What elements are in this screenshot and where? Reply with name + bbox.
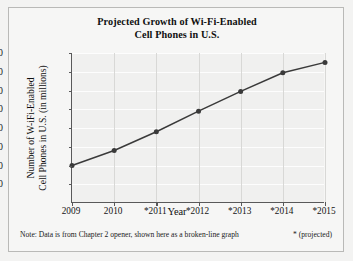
y-axis-tick-mark — [69, 184, 73, 185]
data-point-marker — [323, 60, 328, 65]
x-axis-tick-mark — [241, 202, 242, 206]
y-axis-tick-mark — [69, 147, 73, 148]
y-axis-tick-mark — [69, 72, 73, 73]
y-axis-tick-mark — [69, 166, 73, 167]
x-axis-tick-mark — [199, 202, 200, 206]
data-point-marker — [112, 148, 117, 153]
data-point-marker — [238, 89, 243, 94]
x-axis-tick-mark — [156, 202, 157, 206]
y-axis-tick-label: 140 — [0, 67, 3, 77]
y-axis-label-line-1: Number of W-iFi-Enabled — [25, 77, 36, 178]
x-axis-tick-mark — [114, 202, 115, 206]
x-axis-label: Year — [9, 206, 345, 217]
figure-panel: Projected Growth of Wi-Fi-Enabled Cell P… — [8, 7, 344, 252]
y-axis-tick-mark — [69, 53, 73, 54]
chart-title-line-2: Cell Phones in U.S. — [9, 29, 345, 42]
x-axis-tick-mark — [325, 202, 326, 206]
footnote-note: Note: Data is from Chapter 2 opener, sho… — [20, 230, 239, 239]
y-axis-tick-label: 120 — [0, 86, 3, 96]
plot-wrapper: Number of W-iFi-Enabled Cell Phones in U… — [71, 53, 324, 203]
y-axis-tick-mark — [69, 128, 73, 129]
y-axis-tick-mark — [69, 109, 73, 110]
line-series — [72, 53, 325, 203]
y-axis-label-line-2: Cell Phones in U.S. (in millions) — [37, 30, 49, 226]
chart-title-line-1: Projected Growth of Wi-Fi-Enabled — [97, 16, 257, 27]
footnote: Note: Data is from Chapter 2 opener, sho… — [20, 230, 336, 239]
data-point-marker — [196, 109, 201, 114]
x-axis-tick-mark — [72, 202, 73, 206]
y-axis-tick-label: 20 — [0, 179, 3, 189]
footnote-projected-key: * (projected) — [293, 230, 336, 239]
y-axis-tick-label: 100 — [0, 104, 3, 114]
y-axis-tick-label: 60 — [0, 142, 3, 152]
data-point-marker — [154, 129, 159, 134]
y-axis-tick-mark — [69, 91, 73, 92]
chart-title: Projected Growth of Wi-Fi-Enabled Cell P… — [9, 16, 345, 41]
plot-area — [71, 53, 324, 203]
y-axis-tick-label: 80 — [0, 123, 3, 133]
series-line — [72, 62, 325, 165]
y-axis-tick-label: 160 — [0, 48, 3, 58]
y-axis-label: Number of W-iFi-Enabled Cell Phones in U… — [25, 30, 48, 226]
x-axis-tick-mark — [283, 202, 284, 206]
data-point-marker — [280, 70, 285, 75]
y-axis-tick-label: 40 — [0, 161, 3, 171]
gridline-vertical — [325, 53, 326, 202]
